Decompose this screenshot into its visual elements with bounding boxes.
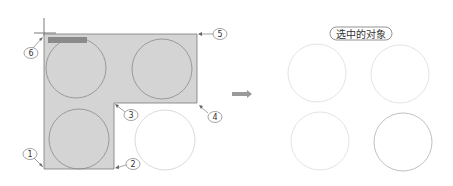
callout-1: 1 — [23, 149, 43, 168]
result-title-text: 选中的对象 — [336, 28, 386, 40]
result-circle-bottom-left — [291, 112, 349, 170]
diagram-canvas: 1 2 3 4 5 6 选中的对 — [0, 0, 453, 186]
callout-4-number: 4 — [212, 113, 217, 122]
callout-5-number: 5 — [217, 30, 222, 39]
callout-4: 4 — [199, 105, 222, 123]
callout-2: 2 — [115, 159, 140, 170]
lasso-selection-area — [44, 34, 197, 169]
result-circle-top-left — [288, 44, 346, 102]
cursor-tooltip — [48, 37, 87, 43]
right-arrow-icon — [232, 90, 252, 98]
circle-unselected-bottom-right — [135, 110, 195, 170]
callout-3: 3 — [115, 104, 138, 121]
result-title: 选中的对象 — [330, 27, 392, 40]
callout-6-number: 6 — [28, 49, 33, 58]
callout-3-number: 3 — [128, 111, 133, 120]
callout-2-number: 2 — [130, 160, 135, 169]
result-circle-bottom-right — [374, 113, 432, 171]
callout-1-number: 1 — [27, 150, 32, 159]
callout-5: 5 — [198, 29, 227, 40]
result-circle-top-right — [371, 45, 429, 103]
callout-6: 6 — [24, 37, 43, 59]
